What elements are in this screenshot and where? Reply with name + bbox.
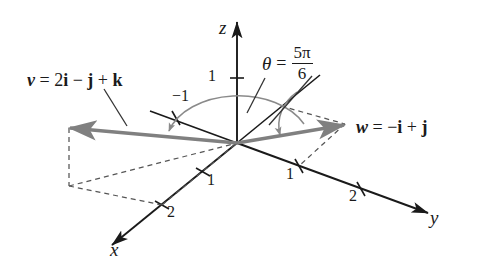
- vector-diagram-figure: z y x 1 1 2 −1 1 2 v = 2i − j + k w = −i…: [0, 0, 481, 266]
- y-negative-tick-label: −1: [172, 88, 189, 104]
- vector-v-label: v = 2i − j + k: [27, 71, 123, 89]
- y-axis-label: y: [430, 208, 438, 227]
- x-tick-label-2: 2: [167, 204, 175, 220]
- x-axis-label: x: [110, 240, 118, 259]
- vector-w-op-minus: −: [387, 117, 397, 137]
- vector-v-unit-k: k: [112, 70, 122, 90]
- y-axis-line: [237, 143, 428, 213]
- w-projection-dashed: [281, 106, 345, 166]
- vector-v-equals: =: [35, 70, 54, 90]
- theta-fraction: 5π 6: [292, 44, 313, 83]
- z-tick-label-1: 1: [208, 68, 216, 84]
- z-axis-label: z: [219, 18, 226, 37]
- vector-v-symbol: v: [27, 70, 35, 90]
- vector-v-coeff-i: 2: [54, 70, 63, 90]
- theta-symbol: θ: [262, 53, 271, 75]
- vector-v-arrow: [70, 128, 237, 143]
- vector-w-equals: =: [368, 117, 387, 137]
- v-label-leader: [104, 89, 127, 126]
- w-from-negative-x: [281, 106, 345, 124]
- vector-w-symbol: w: [356, 117, 368, 137]
- vector-v-op-plus: +: [93, 70, 112, 90]
- theta-major-leader: [247, 78, 265, 113]
- vector-w-label: w = −i + j: [356, 118, 428, 136]
- theta-equals-sign: =: [276, 53, 286, 74]
- vector-w-op-plus: +: [402, 117, 421, 137]
- theta-minor-leader: [269, 76, 312, 125]
- angle-annotation: θ = 5π 6: [262, 44, 313, 83]
- vector-arrows: [70, 125, 344, 143]
- y-tick-label-1: 1: [286, 166, 294, 182]
- y-tick-label-2: 2: [349, 188, 357, 204]
- theta-numerator: 5π: [292, 44, 313, 62]
- x-tick-label-1: 1: [207, 172, 215, 188]
- v-base-to-origin: [69, 186, 162, 205]
- vector-w-arrow: [237, 125, 344, 143]
- theta-denominator: 6: [296, 65, 309, 83]
- vector-v-op-minus: −: [68, 70, 87, 90]
- vector-w-unit-j: j: [422, 117, 428, 137]
